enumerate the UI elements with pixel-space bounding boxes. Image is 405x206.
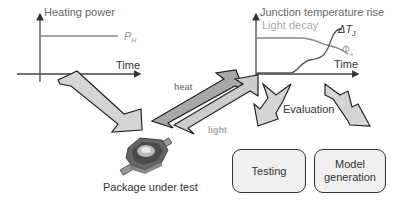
- phi-e-label: Φe: [342, 44, 353, 57]
- light-decay-curve: [257, 38, 348, 54]
- junction-temp-label: Junction temperature rise: [260, 6, 384, 18]
- light-decay-label: Light decay: [262, 19, 318, 31]
- model-line2: generation: [324, 171, 376, 183]
- model-generation-box: Modelgeneration: [314, 149, 386, 193]
- ph-sub: H: [131, 37, 136, 44]
- input-arrow: [58, 71, 142, 132]
- testing-label: Testing: [252, 165, 287, 178]
- light-label: light: [208, 125, 227, 135]
- heat-label: heat: [174, 82, 193, 92]
- testing-box: Testing: [232, 149, 306, 193]
- delta-tj-label: ΔTJ: [338, 23, 356, 37]
- phi-main: Φ: [342, 44, 350, 55]
- right-time-label: Time: [334, 58, 358, 70]
- package-label: Package under test: [103, 181, 198, 193]
- model-generation-label: Modelgeneration: [324, 158, 376, 184]
- left-time-label: Time: [116, 59, 140, 71]
- phi-sub: e: [350, 51, 353, 57]
- evaluation-label: Evaluation: [283, 103, 334, 115]
- model-line1: Model: [335, 158, 365, 170]
- led-package-icon: [120, 138, 172, 175]
- delta-sub: J: [352, 30, 356, 37]
- power-series-label: PH: [124, 30, 136, 44]
- heating-power-label: Heating power: [44, 6, 115, 18]
- delta-main: ΔT: [338, 23, 352, 35]
- temperature-rise-curve: [257, 29, 342, 73]
